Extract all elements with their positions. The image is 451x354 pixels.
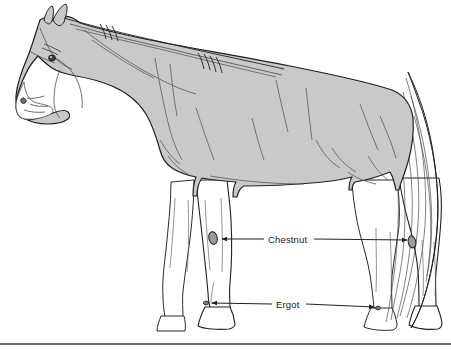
horse-eye: [49, 55, 56, 61]
figure-page: Chestnut Ergot: [0, 0, 451, 354]
horse-nostril: [21, 98, 27, 104]
horse-anatomy-figure: [0, 0, 451, 354]
horse-hoof-near-front: [198, 307, 235, 329]
callout-label-ergot: Ergot: [276, 299, 299, 310]
ergot-marking-foreleg: [203, 301, 208, 305]
callout-label-chestnut: Chestnut: [268, 234, 307, 245]
horse-hoof-far-front: [157, 316, 185, 331]
horse-hoof-near-hind: [409, 306, 442, 329]
horse-hoof-far-hind: [364, 308, 397, 330]
horse-eye-highlight: [50, 56, 52, 58]
ergot-marking-hindleg: [376, 306, 381, 310]
